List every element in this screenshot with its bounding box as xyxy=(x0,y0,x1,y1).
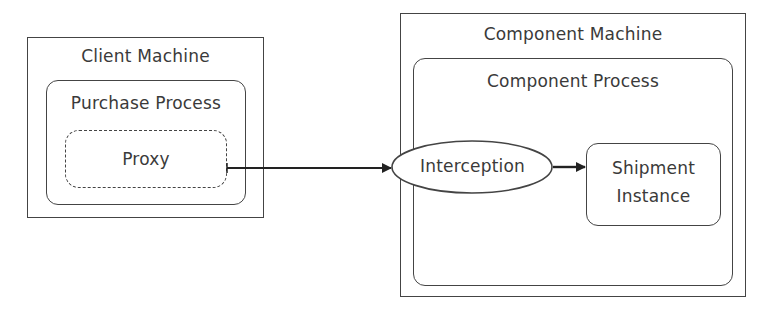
connectors-layer xyxy=(0,0,767,314)
interception-label: Interception xyxy=(392,156,553,176)
